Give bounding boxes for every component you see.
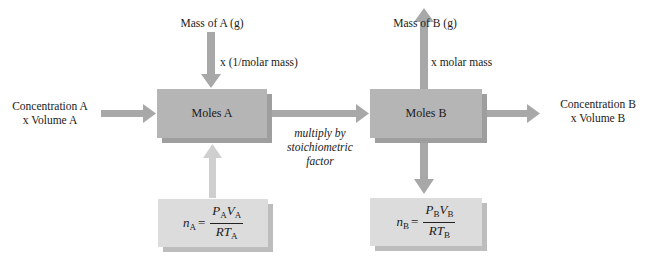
formula-b-box: nB = PBVB RTB [370, 198, 482, 246]
mass-b-operation-label: x molar mass [431, 55, 492, 69]
arrow-formula-a-to-moles-a [203, 144, 222, 198]
stoich-line2: stoichiometric [275, 140, 365, 154]
arrow-moles-a-to-moles-b [272, 104, 369, 123]
stoich-line1: multiply by [275, 126, 365, 140]
moles-a-box: Moles A [157, 89, 267, 138]
formula-a-box: nA = PAVA RTA [158, 199, 268, 247]
arrow-moles-b-to-conc-b [487, 104, 540, 123]
conc-a-line2: x Volume A [0, 113, 100, 127]
arrow-conc-a-to-moles-a [101, 104, 156, 123]
moles-b-box: Moles B [370, 89, 482, 138]
stoich-line3: factor [275, 154, 365, 168]
moles-b-label: Moles B [405, 106, 446, 121]
ideal-gas-formula-a: nA = PAVA RTA [183, 204, 243, 243]
ideal-gas-formula-b: nB = PBVB RTB [397, 203, 456, 242]
conc-a-line1: Concentration A [0, 99, 100, 113]
moles-a-label: Moles A [191, 106, 232, 121]
conc-b-line2: x Volume B [545, 111, 651, 125]
mass-a-operation-label: x (1/molar mass) [220, 55, 298, 69]
mass-a-label: Mass of A (g) [162, 16, 262, 30]
mass-b-label: Mass of B (g) [375, 16, 475, 30]
conc-b-line1: Concentration B [545, 97, 651, 111]
arrow-mass-a-to-moles-a [201, 32, 221, 88]
arrow-moles-b-to-formula-b [414, 143, 434, 194]
